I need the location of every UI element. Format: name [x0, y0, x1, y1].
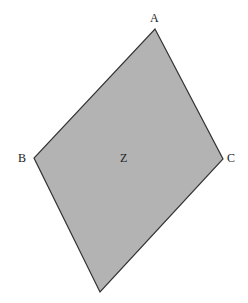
vertex-label-c: C	[227, 151, 235, 165]
center-label-z: Z	[120, 151, 127, 165]
quadrilateral-shape	[34, 29, 223, 292]
vertex-label-b: B	[18, 151, 26, 165]
vertex-label-a: A	[150, 11, 159, 25]
diagram-canvas: A B C Z	[0, 0, 248, 303]
